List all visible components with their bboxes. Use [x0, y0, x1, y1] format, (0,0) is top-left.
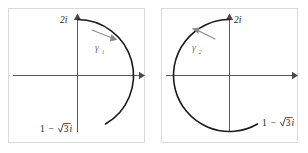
contour-figure: γ 1 2i 1 − 3 i [0, 0, 308, 153]
left-label-radicand: 3 [64, 124, 69, 134]
right-label-radicand: 3 [286, 118, 291, 128]
left-panel: γ 1 2i 1 − 3 i [9, 9, 146, 143]
right-gamma-symbol: γ [192, 43, 196, 53]
right-label-2i: 2i [234, 15, 242, 25]
right-label-imag-unit: i [292, 118, 295, 128]
left-label-real-part: 1 [40, 124, 45, 134]
right-panel: γ 2 2i 1 − 3 i [162, 9, 299, 143]
right-label-minus: − [271, 118, 276, 128]
left-label-2i: 2i [60, 15, 68, 25]
left-gamma-index: 1 [102, 48, 105, 55]
left-label-imag-unit: i [70, 124, 73, 134]
left-label-minus: − [49, 124, 54, 134]
left-gamma-symbol: γ [95, 43, 99, 53]
right-label-real-part: 1 [262, 118, 267, 128]
